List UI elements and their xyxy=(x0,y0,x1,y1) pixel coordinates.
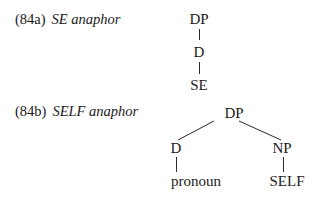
example-number: (84b) xyxy=(15,103,46,119)
tree-a-root-dp: DP xyxy=(189,12,208,26)
tree-b-self: SELF xyxy=(269,174,304,188)
tree-edges xyxy=(0,0,321,198)
edge-dp-d-b xyxy=(178,121,214,140)
example-title: SELF anaphor xyxy=(52,103,138,119)
tree-b-root-dp: DP xyxy=(224,106,243,120)
edge-dp-np-b xyxy=(239,121,281,140)
tree-a-se: SE xyxy=(190,78,208,92)
tree-b-np: NP xyxy=(272,141,291,155)
example-84b-label: (84b)SELF anaphor xyxy=(15,104,138,118)
tree-b-d: D xyxy=(171,141,182,155)
tree-b-pronoun: pronoun xyxy=(171,174,221,188)
tree-a-d: D xyxy=(194,45,205,59)
